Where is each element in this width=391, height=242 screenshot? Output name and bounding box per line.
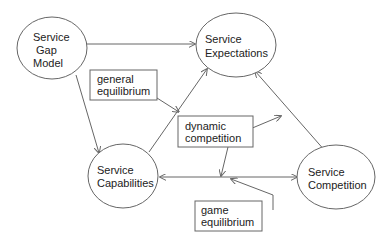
label-gap-3: Model xyxy=(33,57,63,69)
label-exp-2: Expectations xyxy=(205,47,268,59)
label-gap-1: Service xyxy=(33,31,70,43)
label-gen-2: equilibrium xyxy=(97,85,150,97)
edge-dynamic-to-exp-edge xyxy=(250,116,281,129)
label-dyn-2: competition xyxy=(185,132,241,144)
node-service-expectations xyxy=(196,13,276,77)
label-comp-2: Competition xyxy=(308,179,367,191)
edge-dynamic-to-cap-comp xyxy=(221,147,228,176)
label-game-2: equilibrium xyxy=(201,216,254,228)
edge-general-equilibrium xyxy=(157,98,179,112)
label-cap-2: Capabilities xyxy=(97,177,154,189)
label-comp-1: Service xyxy=(308,166,345,178)
label-gen-1: general xyxy=(97,73,134,85)
edge-competition-to-expectations xyxy=(255,71,326,152)
node-service-capabilities xyxy=(88,144,158,208)
label-game-1: game xyxy=(201,204,229,216)
label-exp-1: Service xyxy=(205,33,242,45)
diagram-svg: Service Gap Model Service Expectations S… xyxy=(0,0,391,242)
label-dyn-1: dynamic xyxy=(185,120,226,132)
label-gap-2: Gap xyxy=(36,44,57,56)
label-cap-1: Service xyxy=(97,164,134,176)
diagram-canvas: Service Gap Model Service Expectations S… xyxy=(0,0,391,242)
